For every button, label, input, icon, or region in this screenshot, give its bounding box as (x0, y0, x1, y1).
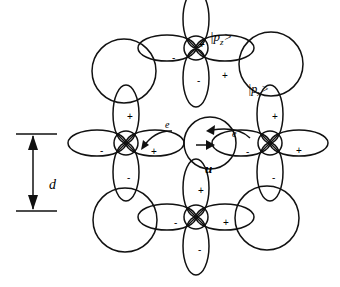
sign-bottom-right: + (223, 217, 229, 228)
sign-bottom-down: - (198, 244, 201, 255)
sign-right-left: - (246, 146, 249, 157)
sign-left-right: + (151, 146, 157, 157)
sign-top-right: + (222, 70, 228, 81)
dimension-d (16, 134, 57, 211)
arrow-head-icon (206, 125, 215, 135)
s-orbital-bottom-left (93, 188, 157, 252)
s-orbital-top-left (92, 39, 156, 103)
sign-top-down: - (197, 75, 200, 86)
d-label: d (49, 177, 56, 193)
u-label: u (205, 161, 212, 177)
sign-left-down: - (127, 172, 130, 183)
sign-right-up: + (272, 111, 278, 122)
px-label: |px> (248, 82, 269, 98)
e-label-left: e (165, 119, 169, 130)
sign-left-up: + (127, 111, 133, 122)
atom-top (138, 0, 254, 107)
sign-top-left: - (172, 52, 175, 63)
e-label-right: e (232, 128, 236, 139)
pz-label: |pz> (210, 29, 232, 47)
sign-right-right: + (296, 145, 302, 156)
atom-bottom (138, 159, 254, 275)
sign-bottom-up: + (198, 185, 204, 196)
orbital-lattice-diagram (0, 0, 340, 287)
sign-bottom-left: - (174, 217, 177, 228)
sign-left-left: - (100, 145, 103, 156)
sign-right-down: - (272, 172, 275, 183)
s-orbital-bottom-right (235, 186, 299, 250)
sign-top-up: + (199, 39, 205, 50)
atom-right (212, 85, 328, 201)
